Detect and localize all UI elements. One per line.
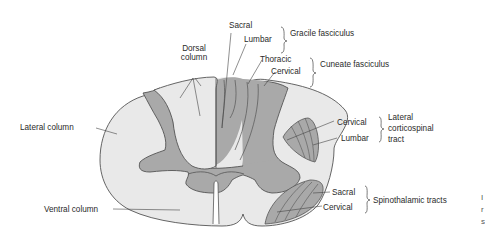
gracile-lumbar-label: Lumbar	[244, 35, 272, 44]
dorsal-column-label: Dorsal column	[164, 44, 224, 62]
edge-fragment: r	[481, 205, 484, 214]
spinal-cord-diagram: Dorsal column Sacral Lumbar Gracile fasc…	[0, 0, 485, 245]
ventral-median-fissure	[213, 181, 219, 224]
lateral-column-label: Lateral column	[20, 123, 74, 132]
lateral-corticospinal-tract-label: Lateral corticospinal tract	[388, 112, 434, 145]
cuneate-fasciculus-label: Cuneate fasciculus	[320, 60, 389, 69]
gracile-sacral-label: Sacral	[229, 21, 252, 30]
gracile-fasciculus-label: Gracile fasciculus	[290, 29, 354, 38]
spinothalamic-cervical-label: Cervical	[323, 203, 353, 212]
cuneate-thoracic-label: Thoracic	[260, 55, 291, 64]
spinothalamic-sacral-label: Sacral	[332, 188, 355, 197]
lcst-cervical-label: Cervical	[337, 118, 367, 127]
lcst-lumbar-label: Lumbar	[341, 134, 369, 143]
edge-fragment: s	[481, 217, 485, 226]
spinothalamic-tracts-label: Spinothalamic tracts	[373, 196, 447, 205]
edge-fragment: I	[481, 193, 483, 202]
cuneate-cervical-label: Cervical	[271, 67, 301, 76]
ventral-column-label: Ventral column	[44, 205, 98, 214]
